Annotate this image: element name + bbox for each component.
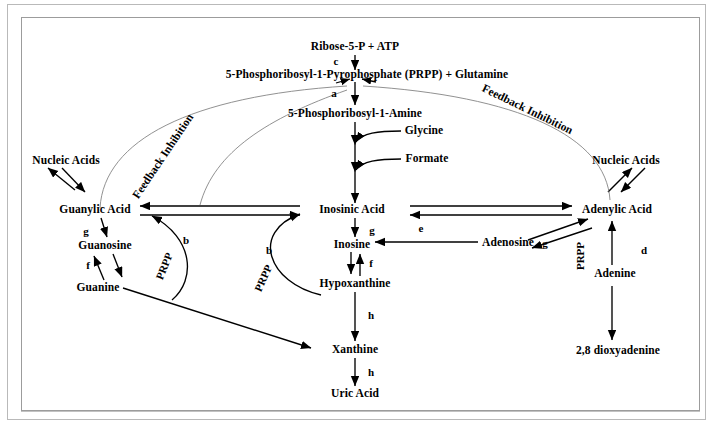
enzyme-label-h-uric: h	[368, 366, 374, 378]
enzyme-label-g-adenosine: g	[542, 237, 548, 249]
node-guanosine: Guanosine	[78, 240, 131, 252]
node-uric-acid: Uric Acid	[331, 388, 379, 400]
node-adenylic-acid: Adenylic Acid	[582, 204, 652, 216]
diagram-page: Ribose-5-P + ATP 5-Phosphoribosyl-1-Pyro…	[0, 0, 721, 434]
node-hypoxanthine: Hypoxanthine	[320, 278, 391, 290]
node-inosine: Inosine	[334, 239, 371, 251]
node-phosphoribosylamine: 5-Phosphoribosyl-1-Amine	[288, 108, 422, 120]
node-guanylic-acid: Guanylic Acid	[59, 204, 130, 216]
enzyme-label-h-xanthine: h	[368, 309, 374, 321]
enzyme-label-e-adenosine: e	[419, 222, 424, 234]
node-dioxyadenine: 2,8 dioxyadenine	[576, 345, 660, 357]
enzyme-label-g-guanosine: g	[83, 225, 89, 237]
enzyme-label-a: a	[331, 87, 337, 99]
node-formate: Formate	[406, 153, 449, 165]
enzyme-label-f-hypoxanthine: f	[369, 257, 373, 269]
node-adenine: Adenine	[594, 268, 636, 280]
enzyme-label-b-center: b	[266, 244, 272, 256]
enzyme-label-c: c	[334, 55, 339, 67]
node-xanthine: Xanthine	[332, 344, 378, 356]
node-glycine: Glycine	[405, 125, 443, 137]
node-nucleic-acids-right: Nucleic Acids	[592, 155, 659, 167]
node-prpp-glutamine: 5-Phosphoribosyl-1-Pyrophosphate (PRPP) …	[226, 69, 509, 81]
node-adenosine: Adenosine	[482, 237, 534, 249]
enzyme-label-b-left: b	[183, 234, 189, 246]
enzyme-label-f-guanine: f	[86, 259, 90, 271]
node-inosinic-acid: Inosinic Acid	[319, 204, 385, 216]
cofactor-prpp-right: PRPP	[574, 242, 586, 270]
node-guanine: Guanine	[77, 282, 120, 294]
enzyme-label-d-adenine: d	[641, 244, 647, 256]
pathway-arrows-layer	[0, 0, 721, 434]
node-ribose-5-p: Ribose-5-P + ATP	[311, 41, 399, 53]
enzyme-label-g-inosine: g	[369, 224, 375, 236]
node-nucleic-acids-left: Nucleic Acids	[32, 155, 99, 167]
